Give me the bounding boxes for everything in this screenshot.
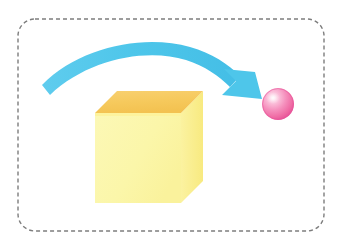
- arrow-shaft: [42, 42, 240, 95]
- curved-arrow-group: [42, 42, 262, 99]
- diagram-svg: [0, 0, 350, 247]
- yellow-cube-group: [95, 91, 203, 203]
- diagram-canvas: [0, 0, 350, 247]
- pink-sphere-group: [262, 88, 294, 120]
- cube-front-face: [95, 113, 181, 203]
- cube-top-front-seam: [95, 113, 181, 116]
- sphere-highlight: [266, 92, 280, 104]
